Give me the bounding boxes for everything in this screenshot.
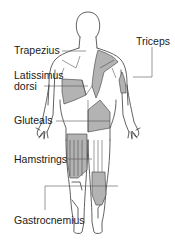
label-trapezius: Trapezius <box>14 45 60 56</box>
label-gluteals: Gluteals <box>14 115 53 126</box>
neck <box>79 37 97 48</box>
gluteal-muscle <box>88 100 110 132</box>
label-latissimus-line2: dorsi <box>14 81 37 92</box>
trapezius-muscle <box>92 50 118 98</box>
label-gastrocnemius: Gastrocnemius <box>14 215 85 226</box>
gastrocnemius-muscle <box>92 172 106 205</box>
head <box>76 12 100 37</box>
triceps-muscle <box>119 72 126 93</box>
label-hamstrings: Hamstrings <box>14 154 67 165</box>
latissimus-muscle <box>62 79 86 104</box>
label-triceps: Triceps <box>136 36 170 47</box>
triceps-leader <box>133 47 152 77</box>
